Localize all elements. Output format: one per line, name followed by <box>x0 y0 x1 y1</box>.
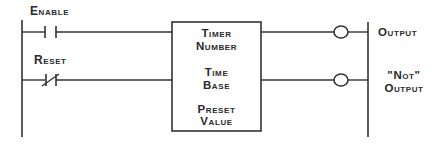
timer-line-6: Value <box>200 115 233 127</box>
timer-line-2: Number <box>196 40 237 52</box>
enable-label: Enable <box>30 4 69 18</box>
rung-reset: Reset <box>22 53 172 86</box>
output-label: Output <box>378 26 417 38</box>
timer-block: Timer Number Time Base Preset Value <box>172 22 261 131</box>
timer-line-5: Preset <box>198 103 236 115</box>
timer-line-4: Base <box>203 79 230 91</box>
reset-label: Reset <box>34 53 67 67</box>
rung-not-output: "Not" Output <box>261 69 424 94</box>
output-coil-icon <box>334 26 348 38</box>
not-output-label-line-1: "Not" <box>387 69 420 81</box>
normally-open-contact-icon <box>45 26 56 38</box>
rung-output: Output <box>261 26 417 38</box>
ladder-diagram: Enable Reset Timer Number Time Base Pres… <box>0 0 444 147</box>
rung-enable: Enable <box>22 4 172 38</box>
timer-line-3: Time <box>205 66 229 78</box>
not-output-coil-icon <box>334 74 348 86</box>
timer-line-1: Timer <box>201 27 231 39</box>
not-output-label-line-2: Output <box>384 82 423 94</box>
